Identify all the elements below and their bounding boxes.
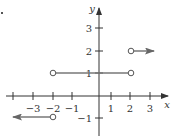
y-axis-label: y <box>88 3 95 14</box>
x-tick-label: 3 <box>147 103 153 114</box>
open-circle <box>50 114 56 120</box>
open-circle <box>50 70 56 76</box>
x-tick-label: −3 <box>26 103 41 114</box>
y-tick-label: 3 <box>86 23 92 34</box>
y-tick-label: −1 <box>77 113 92 124</box>
x-tick-label: 1 <box>108 103 114 114</box>
x-axis-label: x <box>164 99 170 110</box>
open-circle <box>128 48 134 54</box>
y-tick-label: 2 <box>86 46 92 57</box>
piecewise-graph: −3 −2 −1 1 2 3 3 2 1 −1 x y <box>0 0 175 138</box>
x-tick-label: −2 <box>46 103 61 114</box>
open-circle <box>128 70 134 76</box>
stray-dot <box>1 12 3 14</box>
x-tick-label: 2 <box>127 103 133 114</box>
